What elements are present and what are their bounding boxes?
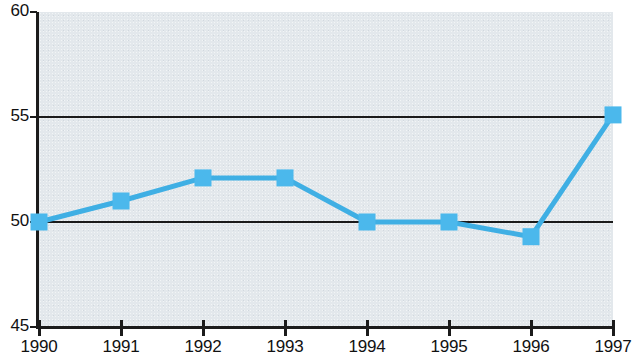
x-tick-label-1995: 1995 [419,337,479,357]
y-tick-label-55: 55 [0,106,29,126]
x-tick-label-1990: 1990 [9,337,69,357]
y-tick-label-50: 50 [0,211,29,231]
y-axis-line [36,12,39,329]
x-tick-1994 [366,320,369,336]
x-tick-1991 [120,320,123,336]
gridline-55 [39,116,613,118]
x-tick-1990 [38,320,41,336]
x-tick-label-1997: 1997 [583,337,636,357]
x-tick-label-1991: 1991 [91,337,151,357]
y-tick-60 [30,11,37,13]
x-tick-label-1993: 1993 [255,337,315,357]
y-tick-label-60: 60 [0,1,29,21]
y-tick-label-45: 45 [0,316,29,336]
x-tick-1993 [284,320,287,336]
x-tick-label-1996: 1996 [501,337,561,357]
x-tick-label-1992: 1992 [173,337,233,357]
x-tick-1995 [448,320,451,336]
x-tick-1996 [530,320,533,336]
x-tick-1997 [612,320,615,336]
y-tick-55 [30,116,37,118]
y-tick-45 [30,326,37,328]
plot-area [39,12,613,327]
x-tick-1992 [202,320,205,336]
y-tick-50 [30,221,37,223]
gridline-50 [39,221,613,223]
x-tick-label-1994: 1994 [337,337,397,357]
